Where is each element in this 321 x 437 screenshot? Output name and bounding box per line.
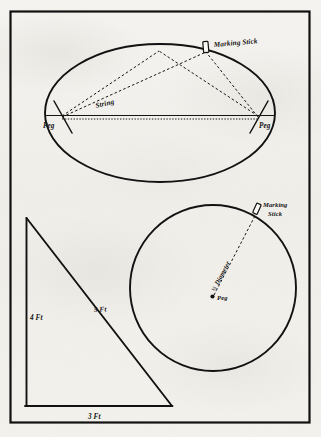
triangle-vertical-leg-label: 4 Ft [29,314,43,322]
peg-right-label: Peg [259,122,271,130]
marking-stick-ellipse [203,41,209,52]
string-right-peg-to-apex-b [206,52,258,117]
triangle-diagram: 4 Ft 5 Ft 3 Ft [25,218,173,421]
peg-left-label: Peg [43,122,55,130]
string-right-peg-to-apex-a [159,51,258,116]
marking-stick-label-circle-line1: Marking [262,201,288,208]
peg-center-dot [210,294,214,298]
string-label: String [95,98,116,110]
ellipse-diagram: Marking Stick String Peg Peg [43,37,275,182]
figure-page: Marking Stick String Peg Peg Marking Sti… [0,0,321,437]
marking-stick-label-ellipse: Marking Stick [212,37,258,49]
figure-drawing: Marking Stick String Peg Peg Marking Sti… [0,0,321,437]
triangle-base-label: 3 Ft [87,413,101,421]
radius-label-text: Diameter [212,259,231,286]
marking-stick-label-circle-line2: Stick [268,210,283,217]
marking-stick-circle [253,203,262,215]
circle-diagram: Marking Stick ½ Diameter Peg [130,201,296,371]
ellipse-outline [45,44,275,182]
peg-center-label: Peg [217,294,228,301]
triangle-hypotenuse-label: 5 Ft [94,305,108,314]
peg-left-mark [54,101,72,133]
